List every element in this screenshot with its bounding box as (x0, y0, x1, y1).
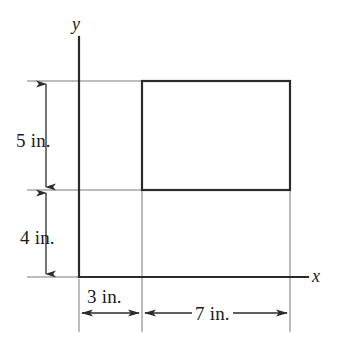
dimension-label-5in: 5 in. (16, 130, 51, 152)
shape-rectangle (142, 81, 290, 190)
y-axis-label: y (72, 14, 80, 35)
dimension-label-3in: 3 in. (87, 286, 122, 308)
extension-lines (27, 81, 290, 332)
dimension-label-4in: 4 in. (20, 227, 55, 249)
dimension-label-7in: 7 in. (192, 303, 233, 325)
axes (79, 37, 308, 277)
x-axis-label: x (312, 266, 320, 287)
diagram-canvas (0, 0, 351, 345)
dimension-diagram: 5 in. 4 in. 3 in. 7 in. y x (0, 0, 351, 345)
